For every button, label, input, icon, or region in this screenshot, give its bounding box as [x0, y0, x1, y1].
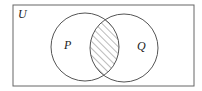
set-q-label: Q — [137, 39, 146, 53]
universe-label: U — [18, 7, 28, 21]
venn-diagram: U P Q — [0, 0, 202, 91]
set-p-label: P — [63, 38, 72, 52]
